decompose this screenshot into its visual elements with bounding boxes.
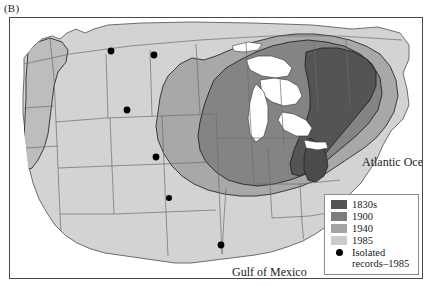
isolated-record-dot bbox=[108, 48, 115, 55]
legend-swatch-1830s bbox=[331, 200, 347, 209]
legend-label-isolated-records: Isolated records–1985 bbox=[352, 247, 409, 269]
legend-item-isolated-records[interactable]: Isolated records–1985 bbox=[329, 247, 414, 269]
isolated-record-dot bbox=[166, 195, 172, 201]
gulf-of-mexico-label: Gulf of Mexico bbox=[232, 265, 307, 278]
isolated-record-dot bbox=[151, 52, 158, 59]
legend-label-1900: 1900 bbox=[352, 211, 373, 222]
legend-swatch-1940 bbox=[331, 224, 347, 233]
legend-swatch-1900 bbox=[331, 212, 347, 221]
legend-swatch-1985 bbox=[331, 236, 347, 245]
isolated-record-dot bbox=[124, 107, 131, 114]
panel-label: (B) bbox=[4, 2, 19, 14]
legend-item-1900[interactable]: 1900 bbox=[329, 211, 414, 222]
legend-dot-icon bbox=[331, 248, 347, 257]
legend-label-1940: 1940 bbox=[352, 223, 373, 234]
legend-item-1940[interactable]: 1940 bbox=[329, 223, 414, 234]
map-legend: 1830s 1900 1940 1985 Isolated records–19… bbox=[324, 194, 419, 275]
isolated-record-dot bbox=[153, 154, 160, 161]
legend-item-1985[interactable]: 1985 bbox=[329, 235, 414, 246]
isolated-record-dot bbox=[218, 242, 225, 249]
legend-label-1830s: 1830s bbox=[352, 199, 377, 210]
legend-item-1830s[interactable]: 1830s bbox=[329, 199, 414, 210]
legend-label-1985: 1985 bbox=[352, 235, 373, 246]
atlantic-ocean-label: Atlantic Ocean bbox=[362, 155, 422, 169]
map-frame: Atlantic Ocean Gulf of Mexico 1830s 1900… bbox=[9, 17, 423, 279]
